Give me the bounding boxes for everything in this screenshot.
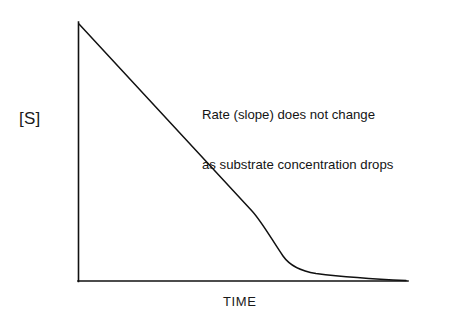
chart-annotation: Rate (slope) does not change as substrat…	[202, 74, 393, 206]
x-axis-label: TIME	[223, 295, 256, 308]
annotation-line-2: as substrate concentration drops	[202, 157, 393, 174]
y-axis-label: [S]	[19, 110, 40, 127]
figure-canvas: [S] TIME Rate (slope) does not change as…	[0, 0, 452, 317]
annotation-line-1: Rate (slope) does not change	[202, 107, 393, 124]
